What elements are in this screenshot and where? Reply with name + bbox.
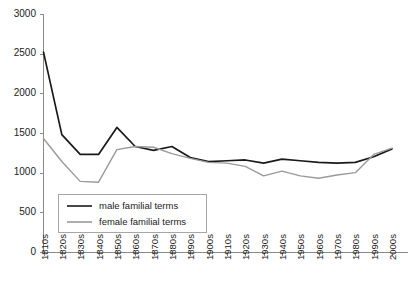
x-tick-label: 1940s [277, 234, 288, 260]
x-tick-label: 1880s [167, 234, 178, 260]
legend-label-0: male familial terms [99, 200, 178, 211]
x-tick-label: 1860s [130, 234, 141, 260]
x-tick-label: 1830s [75, 234, 86, 260]
x-tick-label: 1810s [39, 234, 50, 260]
x-tick-label: 1850s [112, 234, 123, 260]
y-axis-tick-marks [40, 15, 44, 253]
y-axis-tick-labels: 050010001500200025003000 [14, 8, 37, 257]
x-tick-label: 1970s [332, 234, 343, 260]
x-tick-label: 1920s [240, 234, 251, 260]
series-line-male [44, 52, 393, 163]
y-tick-label: 0 [30, 246, 36, 257]
x-tick-label: 2000s [387, 234, 398, 260]
x-tick-label: 1840s [94, 234, 105, 260]
y-tick-label: 3000 [14, 8, 37, 19]
y-tick-label: 1500 [14, 127, 37, 138]
x-tick-label: 1990s [369, 234, 380, 260]
x-tick-label: 1910s [222, 234, 233, 260]
x-tick-label: 1890s [185, 234, 196, 260]
chart-legend: male familial termsfemale familial terms [59, 195, 207, 233]
x-tick-label: 1950s [295, 234, 306, 260]
data-series-group [44, 52, 393, 182]
y-tick-label: 2500 [14, 47, 37, 58]
y-tick-label: 1000 [14, 166, 37, 177]
x-tick-label: 1960s [314, 234, 325, 260]
y-tick-label: 2000 [14, 87, 37, 98]
x-tick-label: 1980s [350, 234, 361, 260]
chart-canvas: 050010001500200025003000 1810s1820s1830s… [0, 0, 415, 304]
x-tick-label: 1930s [259, 234, 270, 260]
x-tick-label: 1900s [204, 234, 215, 260]
x-tick-label: 1820s [57, 234, 68, 260]
x-tick-label: 1870s [149, 234, 160, 260]
legend-label-1: female familial terms [99, 216, 186, 227]
line-chart: 050010001500200025003000 1810s1820s1830s… [0, 0, 415, 304]
y-tick-label: 500 [19, 206, 36, 217]
x-axis-tick-labels: 1810s1820s1830s1840s1850s1860s1870s1880s… [39, 234, 398, 260]
